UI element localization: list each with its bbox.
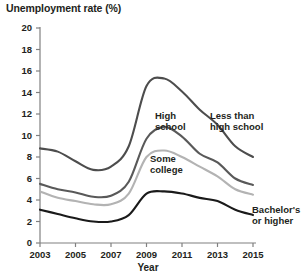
series-label: Somecollege — [150, 153, 183, 175]
y-tick-label: 12 — [21, 108, 32, 119]
x-tick-label: 2013 — [207, 249, 228, 260]
y-tick-label: 8 — [27, 151, 32, 162]
y-tick-label: 4 — [27, 194, 33, 205]
y-tick-label: 10 — [21, 130, 32, 141]
series-label: Less thanhigh school — [210, 110, 263, 132]
series-label: Highschool — [155, 110, 186, 132]
x-tick-label: 2011 — [172, 249, 193, 260]
series-line — [40, 127, 253, 197]
y-tick-label: 14 — [21, 87, 32, 98]
series-label-line: Bachelor's — [252, 204, 300, 215]
series-label: Bachelor'sor higher — [252, 204, 300, 226]
series-lines — [40, 78, 253, 223]
series-label-line: Some — [150, 153, 183, 164]
series-label-line: school — [155, 121, 186, 132]
x-axis-title: Year — [137, 262, 158, 273]
series-label-line: High — [155, 110, 186, 121]
y-tick-label: 18 — [21, 44, 32, 55]
x-axis: 2003200520072009201120132015 — [29, 243, 264, 260]
chart-svg: 02468101214161820 2003200520072009201120… — [0, 0, 302, 275]
y-tick-label: 0 — [27, 237, 32, 248]
y-tick-label: 16 — [21, 65, 32, 76]
series-label-line: or higher — [252, 215, 300, 226]
y-tick-label: 2 — [27, 216, 32, 227]
x-tick-label: 2005 — [65, 249, 87, 260]
x-tick-label: 2003 — [29, 249, 50, 260]
series-label-line: Less than — [210, 110, 263, 121]
x-tick-label: 2009 — [136, 249, 157, 260]
series-line — [40, 191, 253, 222]
series-label-line: college — [150, 164, 183, 175]
series-label-line: high school — [210, 121, 263, 132]
x-tick-label: 2015 — [242, 249, 264, 260]
y-axis: 02468101214161820 — [21, 22, 40, 248]
y-tick-label: 6 — [27, 173, 32, 184]
unemployment-rate-chart: Unemployment rate (%) 02468101214161820 … — [0, 0, 302, 275]
x-tick-label: 2007 — [100, 249, 121, 260]
y-tick-label: 20 — [21, 22, 32, 33]
